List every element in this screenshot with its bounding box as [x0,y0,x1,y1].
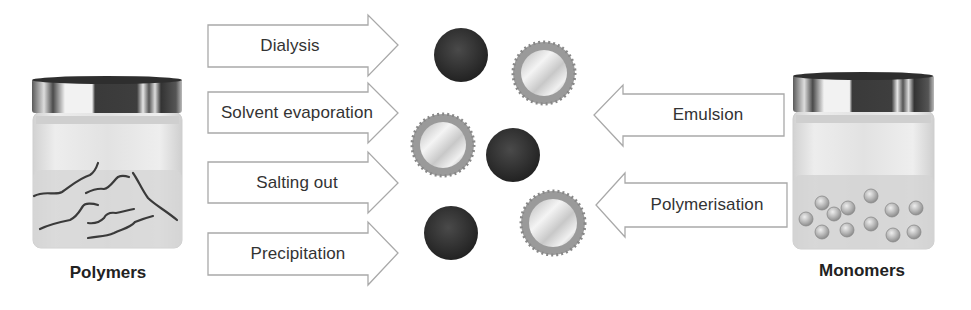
nanosphere-icon [434,28,488,82]
nanocapsule-icon [521,191,585,255]
method-label-salting-out: Salting out [256,173,337,193]
method-label-emulsion: Emulsion [673,105,744,125]
monomers-label: Monomers [819,261,905,281]
polymer-jar-icon [32,76,182,248]
diagram-canvas: Dialysis Solvent evaporation Salting out… [0,0,971,310]
method-label-polymerisation: Polymerisation [651,195,764,215]
monomer-jar-icon [793,72,934,249]
method-label-dialysis: Dialysis [260,36,319,56]
nanosphere-icon [486,128,540,182]
method-label-solvent-evaporation: Solvent evaporation [221,103,373,123]
nanocapsule-icon [412,114,474,176]
polymers-label: Polymers [70,263,147,283]
nanosphere-icon [424,206,478,260]
nanocapsule-icon [513,42,575,104]
method-label-precipitation: Precipitation [251,244,346,264]
